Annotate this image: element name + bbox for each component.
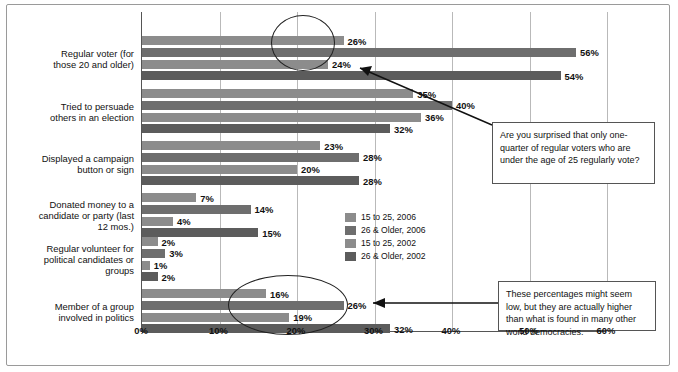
legend-swatch (345, 213, 356, 222)
bar (142, 165, 297, 174)
bar-value-label: 4% (177, 217, 191, 226)
bar-value-label: 54% (565, 72, 584, 81)
bar (142, 205, 251, 214)
bar-value-label: 7% (200, 194, 214, 203)
bar (142, 101, 452, 110)
bar-value-label: 2% (162, 273, 176, 282)
bar-value-label: 28% (363, 177, 382, 186)
bar-value-label: 14% (255, 205, 274, 214)
legend-label: 15 to 25, 2006 (361, 212, 416, 222)
bar-value-label: 32% (394, 325, 413, 334)
x-axis-tick: 50% (509, 325, 549, 336)
category-label: Displayed a campaignbutton or sign (8, 153, 134, 175)
bar-value-label: 3% (169, 249, 183, 258)
x-axis-tick: 0% (121, 325, 161, 336)
legend-label: 26 & Older, 2006 (361, 225, 426, 235)
bar-value-label: 20% (301, 165, 320, 174)
chart-legend: 15 to 25, 200626 & Older, 200615 to 25, … (345, 212, 426, 264)
legend-swatch (345, 226, 356, 235)
bar-value-label: 28% (363, 153, 382, 162)
x-axis-tick: 20% (276, 325, 316, 336)
bar (142, 113, 421, 122)
legend-swatch (345, 239, 356, 248)
chart-root: 26%56%24%54%35%40%36%32%23%28%20%28%7%14… (0, 0, 678, 372)
bar (142, 249, 165, 258)
x-axis-tick: 40% (431, 325, 471, 336)
bar (142, 89, 413, 98)
bar (142, 153, 359, 162)
bar-value-label: 26% (348, 301, 367, 310)
x-axis-tick: 30% (354, 325, 394, 336)
bar (142, 261, 150, 270)
category-label: Donated money to acandidate or party (la… (8, 199, 134, 232)
legend-label: 26 & Older, 2002 (361, 251, 426, 261)
bar (142, 141, 320, 150)
bar (142, 48, 576, 57)
bar-value-label: 24% (332, 60, 351, 69)
bar (142, 71, 561, 80)
bar (142, 228, 258, 237)
bar-value-label: 26% (348, 37, 367, 46)
bar-value-label: 2% (162, 238, 176, 247)
x-axis-tick: 10% (199, 325, 239, 336)
bar-value-label: 36% (425, 113, 444, 122)
category-label: Regular volunteer forpolitical candidate… (8, 243, 134, 276)
bar-value-label: 56% (580, 48, 599, 57)
highlight-ellipse-top (271, 15, 335, 71)
x-axis-tick: 60% (586, 325, 626, 336)
bar-value-label: 35% (417, 90, 436, 99)
gridline (375, 12, 376, 331)
legend-item: 15 to 25, 2002 (345, 238, 426, 248)
bar (142, 237, 158, 246)
bar-value-label: 15% (262, 229, 281, 238)
legend-label: 15 to 25, 2002 (361, 238, 416, 248)
gridline (452, 12, 453, 331)
bar (142, 124, 390, 133)
callout-top: Are you surprised that only one-quarter … (492, 122, 655, 184)
bar-value-label: 1% (154, 261, 168, 270)
category-label: Tried to persuadeothers in an election (8, 101, 134, 123)
bar (142, 217, 173, 226)
bar-value-label: 32% (394, 125, 413, 134)
bar (142, 176, 359, 185)
category-label: Member of a groupinvolved in politics (8, 301, 134, 323)
category-label: Regular voter (forthose 20 and older) (8, 48, 134, 70)
callout-bottom: These percentages might seem low, but th… (498, 281, 656, 331)
legend-swatch (345, 252, 356, 261)
legend-item: 26 & Older, 2006 (345, 225, 426, 235)
legend-item: 15 to 25, 2006 (345, 212, 426, 222)
legend-item: 26 & Older, 2002 (345, 251, 426, 261)
bar-value-label: 40% (456, 101, 475, 110)
bar (142, 193, 196, 202)
bar-value-label: 23% (324, 142, 343, 151)
bar (142, 272, 158, 281)
callout-top-text: Are you surprised that only one-quarter … (500, 130, 640, 165)
